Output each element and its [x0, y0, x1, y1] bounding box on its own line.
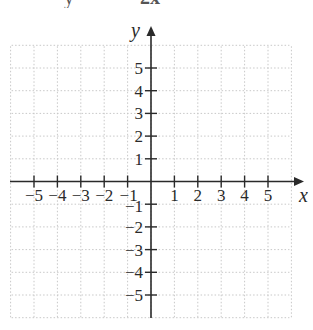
x-tick-label: 1 — [170, 186, 179, 205]
x-tick-label: 3 — [217, 186, 226, 205]
y-tick-label: −4 — [125, 263, 144, 282]
x-axis-label: x — [298, 184, 308, 206]
x-tick-label: 4 — [240, 186, 249, 205]
y-tick-label: 1 — [135, 150, 144, 169]
x-tick-label: 2 — [194, 186, 203, 205]
y-tick-label: −5 — [125, 286, 143, 305]
x-tick-label: −5 — [25, 186, 43, 205]
y-tick-label: 3 — [135, 104, 144, 123]
y-tick-label: 2 — [135, 127, 144, 146]
x-tick-label: −4 — [48, 186, 67, 205]
y-tick-label: −1 — [125, 197, 143, 216]
x-tick-label: −3 — [72, 186, 90, 205]
y-tick-label: 5 — [135, 59, 144, 78]
axes: xy — [10, 19, 308, 318]
y-axis-arrow-icon — [147, 26, 156, 36]
x-tick-label: −2 — [95, 186, 113, 205]
y-tick-label: 4 — [135, 82, 144, 101]
y-tick-label: −3 — [125, 241, 143, 260]
y-tick-label: −2 — [125, 218, 143, 237]
y-axis-label: y — [129, 19, 140, 42]
x-tick-label: 5 — [264, 186, 273, 205]
coordinate-plane: xy −5−4−3−2−112345−5−4−3−2−112345 — [0, 0, 313, 330]
